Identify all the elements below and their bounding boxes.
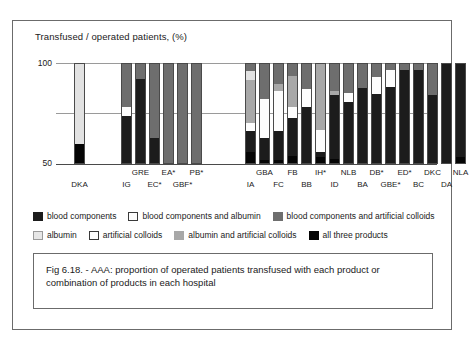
- x-axis-label-NLA: NLA: [447, 169, 473, 177]
- bar-segment-blood_coll: [259, 63, 270, 99]
- bar-segment-blood_coll: [191, 63, 202, 164]
- bar-segment-blood_coll: [329, 63, 340, 91]
- x-axis-label-BB: BB: [293, 181, 321, 189]
- legend-item-blood: blood components: [33, 211, 116, 221]
- x-axis-labels: DKAIGGREEC*EA*GBF*PB*IAGBAFCFBBBIH*IDNLB…: [56, 167, 437, 197]
- bar-segment-blood: [273, 131, 284, 160]
- figure-frame: Transfused / operated patients, (%) 100 …: [12, 20, 452, 330]
- bar-GBFstar: [177, 63, 188, 164]
- legend-label-all_three: all three products: [323, 230, 388, 240]
- x-axis-label-FC: FC: [265, 181, 293, 189]
- legend-swatch-alb_artcoll-icon: [174, 231, 184, 240]
- bar-ECstar: [149, 63, 160, 164]
- x-axis-label-ECstar: EC*: [141, 181, 169, 189]
- bar-segment-blood: [385, 87, 396, 164]
- legend-swatch-artcoll-icon: [89, 231, 99, 240]
- bar-segment-alb_artcoll: [273, 84, 284, 91]
- legend-label-alb_artcoll: albumin and artificial colloids: [188, 230, 296, 240]
- x-axis-label-DKA: DKA: [66, 181, 94, 189]
- bar-segment-blood_coll: [427, 63, 438, 95]
- bar-PBstar: [191, 63, 202, 164]
- bar-FB: [287, 63, 298, 164]
- legend-item-all_three: all three products: [309, 230, 388, 240]
- bar-segment-blood_alb: [273, 91, 284, 130]
- legend-swatch-albumin-icon: [33, 231, 43, 240]
- bar-IG: [121, 63, 132, 164]
- bar-segment-all_three: [455, 157, 466, 164]
- bar-segment-all_three: [315, 157, 326, 164]
- bar-segment-blood_coll: [245, 63, 256, 71]
- x-axis-label-IG: IG: [113, 181, 141, 189]
- bar-DA: [441, 63, 452, 164]
- x-axis-label-BA: BA: [349, 181, 377, 189]
- bar-segment-blood_alb: [315, 130, 326, 152]
- bar-segment-blood_coll: [413, 63, 424, 70]
- bar-ID: [329, 63, 340, 164]
- bar-segment-blood_alb: [287, 107, 298, 117]
- bar-NLA: [455, 63, 466, 164]
- bar-segment-all_three: [245, 152, 256, 164]
- bars-layer: [56, 63, 437, 164]
- bar-segment-blood_alb: [385, 70, 396, 87]
- x-axis-label-IA: IA: [237, 181, 265, 189]
- caption-box: Fig 6.18. - AAA: proportion of operated …: [33, 253, 433, 309]
- chart-title: Transfused / operated patients, (%): [35, 31, 187, 42]
- legend-row-1: blood componentsblood components and alb…: [33, 211, 437, 221]
- bar-segment-blood_coll: [371, 63, 382, 77]
- bar-segment-blood_coll: [399, 63, 410, 70]
- bar-segment-blood: [427, 95, 438, 164]
- legend-label-blood_coll: blood components and artificial colloids: [287, 211, 435, 221]
- bar-EDstar: [399, 63, 410, 164]
- bar-segment-blood: [301, 107, 312, 164]
- x-axis-label-DBstar: DB*: [363, 169, 391, 177]
- bar-GBEstar: [385, 63, 396, 164]
- x-axis-label-NLB: NLB: [335, 169, 363, 177]
- bar-BC: [413, 63, 424, 164]
- x-axis-label-GBEstar: GBE*: [377, 181, 405, 189]
- legend-item-alb_artcoll: albumin and artificial colloids: [174, 230, 296, 240]
- legend-item-blood_coll: blood components and artificial colloids: [273, 211, 435, 221]
- x-axis-label-DA: DA: [433, 181, 461, 189]
- y-axis-tick-100: 100: [38, 59, 52, 68]
- x-axis-label-PBstar: PB*: [183, 169, 211, 177]
- bar-segment-all_three: [287, 156, 298, 164]
- x-axis-label-DKC: DKC: [419, 169, 447, 177]
- bar-segment-blood: [329, 95, 340, 159]
- bar-segment-blood: [343, 102, 354, 164]
- bar-segment-alb_artcoll: [315, 63, 326, 130]
- chart-legend: blood componentsblood components and alb…: [33, 211, 437, 249]
- bar-segment-blood: [441, 63, 452, 164]
- legend-label-artcoll: artificial colloids: [103, 230, 163, 240]
- bar-segment-blood: [245, 131, 256, 152]
- x-axis-line: [56, 164, 437, 165]
- bar-segment-blood_coll: [135, 63, 146, 79]
- bar-DKA: [74, 63, 85, 164]
- x-axis-label-FB: FB: [279, 169, 307, 177]
- legend-row-2: albuminartificial colloidsalbumin and ar…: [33, 230, 437, 240]
- legend-swatch-blood-icon: [33, 212, 43, 221]
- y-axis-tick-50: 50: [43, 159, 52, 168]
- bar-segment-blood_coll: [149, 63, 160, 138]
- x-axis-label-EAstar: EA*: [155, 169, 183, 177]
- bar-segment-blood: [455, 63, 466, 157]
- bar-segment-blood_coll: [121, 63, 132, 107]
- x-axis-label-GRE: GRE: [127, 169, 155, 177]
- bar-GBA: [259, 63, 270, 164]
- legend-item-artcoll: artificial colloids: [89, 230, 163, 240]
- bar-segment-blood_alb: [245, 123, 256, 131]
- legend-item-albumin: albumin: [33, 230, 77, 240]
- x-axis-label-GBA: GBA: [251, 169, 279, 177]
- figure-caption: Fig 6.18. - AAA: proportion of operated …: [46, 264, 422, 290]
- bar-segment-blood: [259, 138, 270, 160]
- bar-segment-alb_artcoll: [287, 76, 298, 107]
- legend-swatch-blood_alb-icon: [128, 212, 138, 221]
- bar-BB: [301, 63, 312, 164]
- legend-swatch-all_three-icon: [309, 231, 319, 240]
- bar-GRE: [135, 63, 146, 164]
- bar-segment-blood_alb: [121, 107, 132, 115]
- bar-NLB: [343, 63, 354, 164]
- x-axis-label-BC: BC: [405, 181, 433, 189]
- bar-segment-blood_coll: [177, 63, 188, 164]
- bar-segment-blood: [399, 70, 410, 164]
- legend-item-blood_alb: blood components and albumin: [128, 211, 260, 221]
